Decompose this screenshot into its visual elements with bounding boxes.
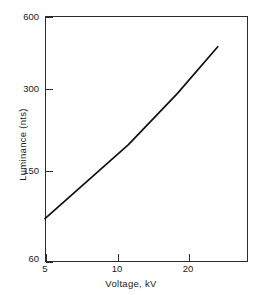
y-axis-title: Luminance (nts) xyxy=(17,70,28,220)
plot-area xyxy=(45,16,248,262)
x-tick-10 xyxy=(118,254,119,261)
x-axis-title: Voltage, kV xyxy=(0,278,262,289)
x-tick-label-10: 10 xyxy=(105,263,129,274)
x-tick-label-20: 20 xyxy=(176,263,200,274)
y-tick-label-600: 600 xyxy=(9,11,39,22)
y-tick-600 xyxy=(46,17,53,18)
x-tick-label-5: 5 xyxy=(33,263,57,274)
chart-figure: 600 300 150 60 5 10 20 Voltage, kV Lumin… xyxy=(0,0,262,295)
x-tick-20 xyxy=(189,254,190,261)
y-tick-300 xyxy=(46,89,53,90)
y-tick-150 xyxy=(46,171,53,172)
x-tick-5 xyxy=(46,254,47,261)
